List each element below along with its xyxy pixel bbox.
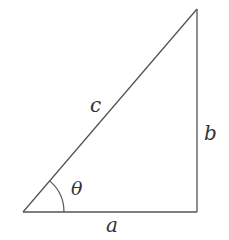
- angle-arc: [50, 181, 64, 212]
- triangle-canvas: c b a θ: [0, 0, 229, 240]
- right-triangle-diagram: c b a θ: [0, 0, 229, 240]
- vertical-side-label: b: [204, 121, 217, 145]
- hypotenuse-label: c: [90, 93, 101, 117]
- hypotenuse-line: [23, 9, 197, 212]
- horizontal-side-label: a: [106, 213, 118, 237]
- angle-theta-label: θ: [71, 177, 83, 199]
